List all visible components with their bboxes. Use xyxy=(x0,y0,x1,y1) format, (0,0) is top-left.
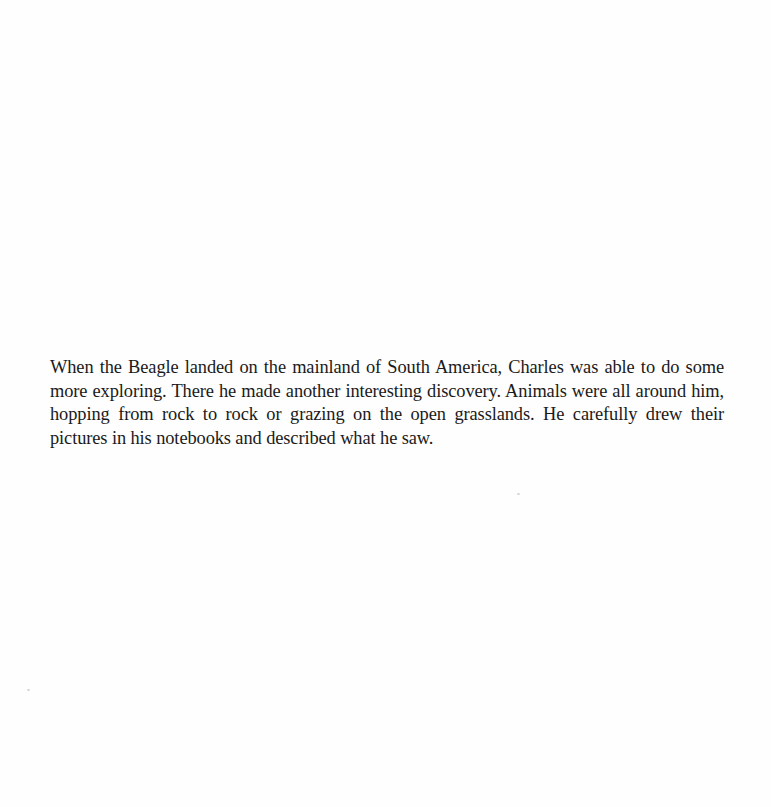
scan-speck xyxy=(517,493,520,495)
body-paragraph: When the Beagle landed on the mainland o… xyxy=(50,356,724,450)
book-page: When the Beagle landed on the mainland o… xyxy=(0,0,771,807)
scan-speck xyxy=(27,689,30,691)
